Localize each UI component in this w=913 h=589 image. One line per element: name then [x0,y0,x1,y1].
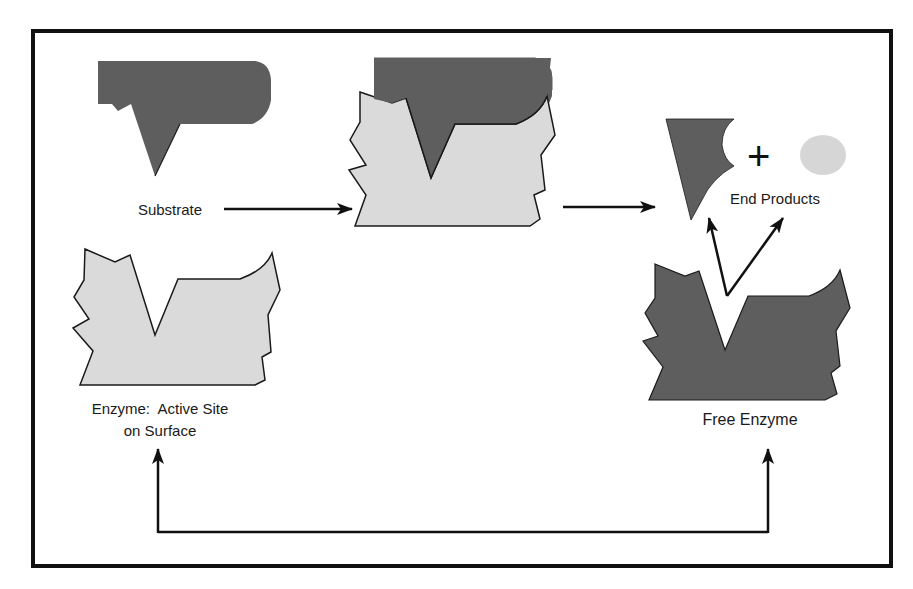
end-product-ellipse [800,135,846,175]
enzyme-label-line1: Enzyme: Active Site [60,398,260,420]
substrate-label: Substrate [110,199,230,221]
enzyme-label-line2: on Surface [60,420,260,442]
enzyme-substrate-complex [349,58,555,226]
end-products-label: End Products [700,188,850,210]
arrow-release-fragment [709,218,727,296]
free-enzyme-shape [643,264,850,400]
free-enzyme-label: Free Enzyme [670,409,830,431]
enzyme-label: Enzyme: Active Site on Surface [60,398,260,442]
arrow-release-ellipse [727,218,783,296]
diagram-canvas [0,0,913,589]
substrate-shape [98,61,271,176]
enzyme-shape [73,249,280,385]
plus-sign: + [747,136,770,176]
